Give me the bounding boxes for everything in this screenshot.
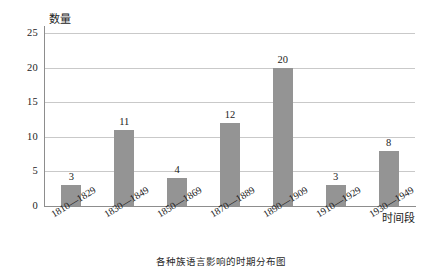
y-tick-label-group: 0510152025 xyxy=(0,0,38,263)
y-tick-label: 10 xyxy=(6,132,38,143)
bar xyxy=(273,68,293,206)
gridline xyxy=(45,102,415,103)
gridline xyxy=(45,33,415,34)
bar-value-label: 12 xyxy=(210,110,250,121)
y-tick-label: 5 xyxy=(6,166,38,177)
y-tick-label: 20 xyxy=(6,63,38,74)
gridline xyxy=(45,68,415,69)
bar-value-label: 20 xyxy=(263,55,303,66)
bar-value-label: 8 xyxy=(369,138,409,149)
bar-value-label: 3 xyxy=(316,172,356,183)
x-axis-title: 时间段 xyxy=(382,213,415,225)
bar-value-label: 3 xyxy=(51,172,91,183)
y-tick-label: 0 xyxy=(6,201,38,212)
figure-caption: 各种族语言影响的时期分布图 xyxy=(0,256,442,267)
y-axis-title: 数量 xyxy=(49,14,71,26)
bar-value-label: 11 xyxy=(104,117,144,128)
bar-value-label: 4 xyxy=(157,165,197,176)
y-tick-label: 25 xyxy=(6,28,38,39)
y-tick-label: 15 xyxy=(6,97,38,108)
